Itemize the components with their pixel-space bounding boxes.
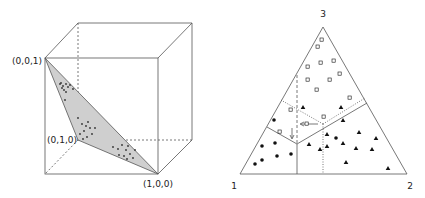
simplex-triangle: [45, 58, 158, 174]
hidden-edge: [45, 140, 78, 174]
label-corner-2: 2: [407, 181, 413, 191]
figure: (0,0,1) (0,1,0) (1,0,0): [0, 0, 425, 198]
class-2-markers: [301, 105, 391, 170]
ternary-diagram: [240, 27, 407, 174]
label-v001: (0,0,1): [12, 56, 42, 66]
ternary-triangle: [240, 27, 407, 174]
class-1-markers: [253, 118, 338, 166]
cube-edge: [158, 140, 192, 174]
label-v100: (1,0,0): [143, 179, 173, 189]
label-v010: (0,1,0): [47, 135, 77, 145]
partition-line: [267, 127, 297, 144]
cube-edge: [45, 23, 78, 58]
simplex-plane: [45, 58, 158, 174]
corner-labels: 1 2 3: [231, 9, 413, 191]
label-corner-1: 1: [231, 181, 237, 191]
label-corner-3: 3: [320, 9, 326, 19]
dotted-partition-line: [281, 100, 323, 124]
cube-edge: [158, 23, 192, 58]
